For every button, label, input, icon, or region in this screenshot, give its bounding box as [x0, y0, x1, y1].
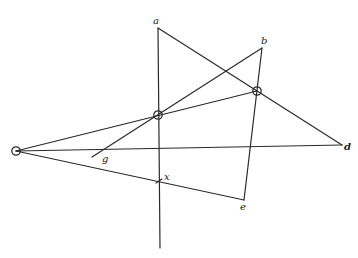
label-b: b — [261, 35, 267, 46]
label-g: g — [102, 153, 108, 164]
line-g-b — [92, 48, 262, 157]
line-o-e — [16, 151, 244, 200]
label-x: x — [164, 171, 170, 182]
label-a: a — [153, 15, 159, 26]
line-o-p2 — [16, 91, 257, 151]
vertical-line-a — [158, 28, 160, 248]
line-a-d — [158, 28, 342, 145]
line-b-e — [244, 48, 262, 200]
geometric-diagram: a b d e g x — [0, 0, 358, 258]
line-o-d — [16, 145, 342, 151]
label-e: e — [240, 201, 246, 212]
label-d: d — [344, 141, 351, 152]
